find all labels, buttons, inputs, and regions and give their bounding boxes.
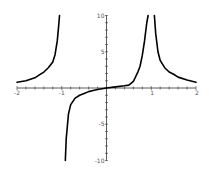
x-tick-label: -1	[59, 89, 65, 96]
x-tick-label: -2	[14, 89, 20, 96]
y-tick-label: 5	[101, 48, 105, 55]
curve-branch	[17, 16, 60, 83]
function-plot: -2-112105-5-10	[0, 0, 209, 170]
y-tick-label: 10	[97, 12, 105, 19]
x-tick-label: 2	[195, 89, 199, 96]
curve-branch	[107, 16, 149, 89]
curve-branch	[154, 16, 196, 83]
x-tick-label: 1	[150, 89, 154, 96]
y-tick-label: -10	[95, 157, 105, 164]
y-tick-label: -5	[99, 120, 105, 127]
